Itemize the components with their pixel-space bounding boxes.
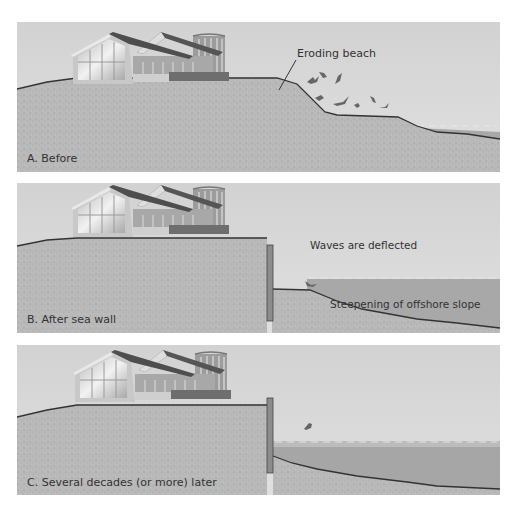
sea-wall: [267, 398, 273, 473]
label-eroding-beach: Eroding beach: [297, 47, 376, 60]
caption-b: B. After sea wall: [27, 313, 116, 326]
label-waves-deflected: Waves are deflected: [310, 239, 417, 251]
panel-before: Eroding beach A. Before: [17, 22, 500, 172]
caption-c: C. Several decades (or more) later: [27, 476, 217, 489]
panel-decades-later: C. Several decades (or more) later: [17, 345, 500, 495]
label-steepening-slope: Steepening of offshore slope: [330, 298, 481, 310]
sea-wall: [267, 245, 273, 321]
panel-after-sea-wall: Waves are deflected Steepening of offsho…: [17, 183, 500, 333]
caption-a: A. Before: [27, 152, 78, 165]
